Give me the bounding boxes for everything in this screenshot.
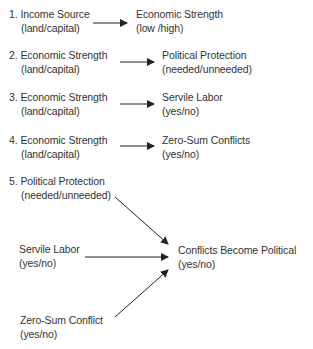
zero-sum-conflict-arrow-icon xyxy=(115,270,168,317)
political-protection-arrow-icon xyxy=(115,197,168,244)
arrows-layer xyxy=(0,0,313,349)
